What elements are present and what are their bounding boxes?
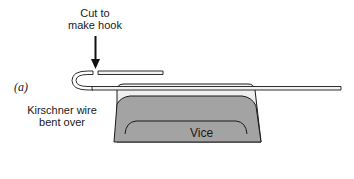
cut-label-line2: make hook	[64, 19, 126, 31]
wire-label-line1: Kirschner wire	[22, 104, 102, 116]
diagram-drawing	[0, 0, 354, 179]
vice	[114, 84, 261, 142]
wire-label-line2: bent over	[22, 116, 102, 128]
cut-label-line1: Cut to	[64, 7, 126, 19]
vice-label: Vice	[190, 126, 213, 140]
panel-label: (a)	[14, 80, 28, 95]
cut-label: Cut to make hook	[64, 7, 126, 31]
kirschner-wire	[72, 71, 341, 90]
figure: (a) Cut to make hook Kirschner wire bent…	[0, 0, 354, 179]
cut-arrow-icon	[91, 36, 100, 69]
wire-label: Kirschner wire bent over	[22, 104, 102, 128]
